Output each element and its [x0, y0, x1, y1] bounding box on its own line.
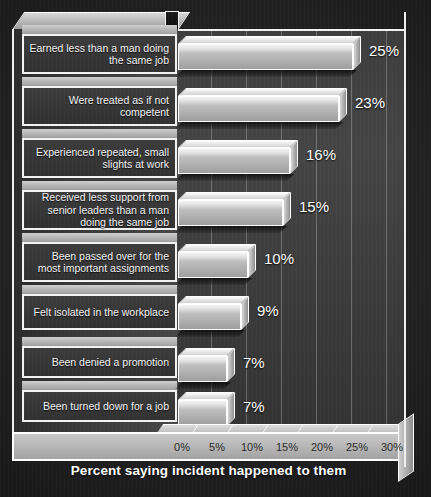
category-separator-strip	[22, 381, 177, 390]
category-label-text: Been turned down for a job	[43, 400, 169, 412]
x-tick-15: 15%	[276, 441, 298, 453]
bar-3[interactable]	[178, 140, 300, 176]
category-label-2[interactable]: Were treated as if not competent	[22, 86, 177, 126]
category-separator-strip	[22, 129, 177, 138]
category-separator-strip	[22, 181, 177, 190]
x-axis-title: Percent saying incident happened to them	[0, 463, 417, 478]
category-separator-strip	[22, 337, 177, 346]
bar-top-face	[178, 36, 361, 44]
category-label-text: Received less support from senior leader…	[28, 191, 169, 228]
bar-shadow	[175, 382, 231, 389]
bar-front-face	[178, 200, 283, 226]
bar-front-face	[178, 356, 227, 382]
bar-side-face	[227, 392, 235, 426]
x-tick-20: 20%	[311, 441, 333, 453]
bar-value-label-7: 7%	[243, 354, 265, 371]
bar-front-face	[178, 304, 241, 330]
bar-value-label-3: 16%	[306, 146, 336, 163]
bar-4[interactable]	[178, 192, 293, 228]
bar-6[interactable]	[178, 296, 251, 332]
category-label-1[interactable]: Earned less than a man doing the same jo…	[22, 34, 177, 74]
bar-front-face	[178, 400, 227, 426]
category-label-text: Been passed over for the most important …	[28, 250, 169, 275]
bar-top-face	[178, 140, 298, 148]
bar-value-label-6: 9%	[257, 302, 279, 319]
category-separator-strip	[22, 77, 177, 86]
bar-side-face	[241, 296, 249, 330]
bar-side-face	[353, 36, 361, 70]
category-label-text: Were treated as if not competent	[28, 94, 169, 119]
bar-side-face	[290, 140, 298, 174]
category-separator-strip	[22, 285, 177, 294]
x-tick-10: 10%	[241, 441, 263, 453]
bar-front-face	[178, 148, 290, 174]
category-label-6[interactable]: Felt isolated in the workplace	[22, 294, 177, 330]
category-label-text: Earned less than a man doing the same jo…	[28, 42, 169, 67]
chart-canvas: Earned less than a man doing the same jo…	[0, 0, 431, 497]
bar-side-face	[283, 192, 291, 226]
bar-shadow	[175, 226, 287, 233]
bar-value-label-1: 25%	[369, 42, 399, 59]
category-label-text: Experienced repeated, small slights at w…	[28, 146, 169, 171]
bar-value-label-5: 10%	[264, 250, 294, 267]
category-label-5[interactable]: Been passed over for the most important …	[22, 242, 177, 282]
bar-2[interactable]	[178, 88, 349, 124]
bar-value-label-8: 7%	[243, 398, 265, 415]
x-tick-0: 0%	[174, 441, 190, 453]
bar-front-face	[178, 252, 248, 278]
bar-side-face	[248, 244, 256, 278]
category-separator-strip	[22, 25, 177, 34]
x-tick-5: 5%	[209, 441, 225, 453]
gridline	[351, 31, 352, 432]
category-label-text: Been denied a promotion	[52, 356, 169, 368]
bar-8[interactable]	[178, 392, 237, 428]
category-label-7[interactable]: Been denied a promotion	[22, 346, 177, 378]
bar-side-face	[227, 348, 235, 382]
bar-1[interactable]	[178, 36, 363, 72]
bar-top-face	[178, 296, 249, 304]
bar-value-label-2: 23%	[355, 94, 385, 111]
bar-side-face	[339, 88, 347, 122]
category-label-text: Felt isolated in the workplace	[34, 306, 169, 318]
bar-front-face	[178, 44, 353, 70]
category-label-8[interactable]: Been turned down for a job	[22, 390, 177, 422]
category-separator-strip	[22, 233, 177, 242]
bar-top-face	[178, 192, 291, 200]
bar-value-label-4: 15%	[299, 198, 329, 215]
bar-top-face	[178, 244, 256, 252]
category-label-4[interactable]: Received less support from senior leader…	[22, 190, 177, 230]
bar-7[interactable]	[178, 348, 237, 384]
x-tick-30: 30%	[381, 441, 403, 453]
category-label-3[interactable]: Experienced repeated, small slights at w…	[22, 138, 177, 178]
bar-shadow	[175, 278, 252, 285]
bar-front-face	[178, 96, 339, 122]
gridline	[386, 31, 387, 432]
bar-shadow	[175, 330, 245, 337]
bar-shadow	[175, 70, 357, 77]
x-tick-25: 25%	[346, 441, 368, 453]
bar-5[interactable]	[178, 244, 258, 280]
bar-shadow	[175, 122, 343, 129]
bar-top-face	[178, 88, 347, 96]
frame-right-edge	[404, 12, 406, 467]
bar-shadow	[175, 174, 294, 181]
